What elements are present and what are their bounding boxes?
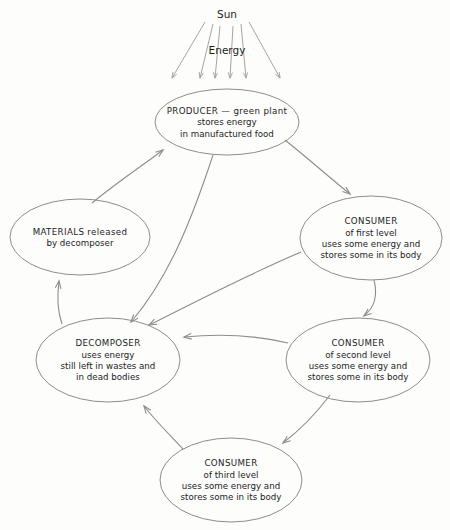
consumer-second-level-node[interactable]: CONSUMERof second leveluses some energy …	[286, 318, 430, 402]
flow-producer-to-decomposer	[131, 155, 213, 322]
materials-node[interactable]: MATERIALS releasedby decomposer	[10, 199, 150, 275]
consumer-second-level-node-label: CONSUMERof second leveluses some energy …	[308, 338, 409, 382]
flow-consumer-third-to-decomposer	[144, 406, 183, 449]
nodes-group: PRODUCER — green plantstores energyin ma…	[10, 89, 442, 522]
flow-decomposer-to-materials	[58, 281, 62, 324]
energy-label: Energy	[209, 44, 246, 56]
sun-ray-arrow-6	[249, 22, 280, 78]
materials-node-label: MATERIALS releasedby decomposer	[33, 227, 128, 248]
energy-flow-diagram: PRODUCER — green plantstores energyin ma…	[0, 0, 450, 530]
consumer-third-level-node-label: CONSUMERof third leveluses some energy a…	[181, 458, 282, 502]
decomposer-node[interactable]: DECOMPOSERuses energystill left in waste…	[36, 318, 180, 402]
flow-consumer-first-to-decomposer	[149, 252, 301, 325]
consumer-first-level-node[interactable]: CONSUMERof first leveluses some energy a…	[300, 196, 442, 280]
flow-arrows-group	[58, 140, 376, 449]
sun-label: Sun	[217, 8, 237, 20]
flow-producer-to-consumer-first	[285, 140, 350, 194]
flow-consumer-first-to-consumer-second	[364, 280, 376, 316]
consumer-third-level-node[interactable]: CONSUMERof third leveluses some energy a…	[160, 438, 302, 522]
consumer-first-level-node-label: CONSUMERof first leveluses some energy a…	[321, 216, 422, 260]
flow-materials-to-producer	[92, 150, 163, 203]
producer-node-label: PRODUCER — green plantstores energyin ma…	[167, 106, 288, 139]
decomposer-node-label: DECOMPOSERuses energystill left in waste…	[61, 338, 156, 382]
sun-ray-arrow-1	[172, 22, 205, 78]
producer-node[interactable]: PRODUCER — green plantstores energyin ma…	[155, 89, 299, 155]
diagram-canvas: PRODUCER — green plantstores energyin ma…	[0, 0, 450, 530]
flow-consumer-second-to-consumer-third	[283, 395, 330, 443]
flow-consumer-second-to-decomposer	[184, 335, 288, 343]
